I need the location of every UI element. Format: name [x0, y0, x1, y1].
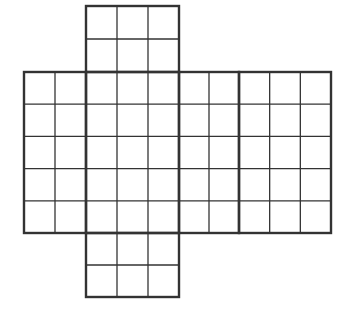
face-outline: [86, 72, 179, 233]
face-outline: [239, 72, 331, 233]
back-face: [239, 72, 331, 233]
box-net-diagram: [0, 0, 348, 314]
front-face: [86, 72, 179, 233]
bottom-face: [86, 233, 179, 297]
right-face: [179, 72, 239, 233]
top-face: [86, 6, 179, 72]
left-face: [24, 72, 86, 233]
